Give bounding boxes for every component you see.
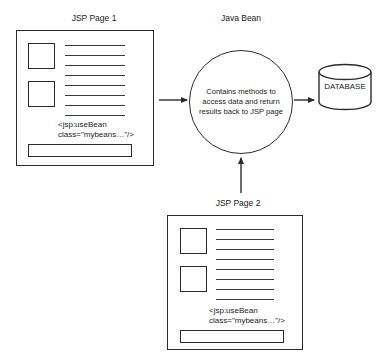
jsp-page-2-content-rule bbox=[216, 279, 274, 280]
java-bean-circle: Contains methods to access data and retu… bbox=[189, 50, 293, 154]
jsp-page-2-title: JSP Page 2 bbox=[194, 198, 282, 208]
jsp-page-1-title: JSP Page 1 bbox=[54, 13, 134, 23]
jsp-page-1-content-rule bbox=[65, 115, 125, 116]
jsp-page-2-content-rule bbox=[216, 289, 274, 290]
java-bean-description: Contains methods to access data and retu… bbox=[194, 87, 288, 117]
jsp-page-2-footer-bar bbox=[180, 330, 284, 343]
jsp-page-1-code-line-2: class="mybeans…"/> bbox=[58, 130, 134, 141]
jsp-page-1-content-rule bbox=[65, 55, 125, 56]
diagram-canvas: JSP Page 1 <jsp:useBean class="mybeans…"… bbox=[0, 0, 392, 364]
jsp-page-1-thumbnail-1 bbox=[28, 43, 55, 69]
jsp-page-1-content-rule bbox=[65, 95, 125, 96]
java-bean-title: Java Bean bbox=[200, 13, 282, 23]
jsp-page-1-thumbnail-2 bbox=[28, 81, 55, 107]
jsp-page-1-content-rule bbox=[65, 105, 125, 106]
jsp-page-2-content-rule bbox=[216, 299, 274, 300]
jsp-page-2-content-rule bbox=[216, 239, 274, 240]
jsp-page-2-code-line-2: class="mybeans…"/> bbox=[209, 316, 285, 327]
database-label: DATABASE bbox=[317, 82, 373, 91]
jsp-page-2-thumbnail-1 bbox=[180, 228, 207, 254]
database-cylinder: DATABASE bbox=[317, 63, 373, 111]
jsp-page-2-content-rule bbox=[216, 229, 274, 230]
jsp-page-1-content-rule bbox=[65, 85, 125, 86]
jsp-page-1-content-rule bbox=[65, 65, 125, 66]
jsp-page-2-thumbnail-2 bbox=[180, 266, 207, 292]
jsp-page-1-footer-bar bbox=[28, 144, 132, 157]
jsp-page-2-box: <jsp:useBean class="mybeans…"/> bbox=[167, 215, 303, 350]
jsp-page-2-content-rule bbox=[216, 249, 274, 250]
jsp-page-1-content-rule bbox=[65, 45, 125, 46]
jsp-page-1-code-line-1: <jsp:useBean bbox=[58, 120, 107, 131]
jsp-page-1-box: <jsp:useBean class="mybeans…"/> bbox=[16, 30, 154, 166]
jsp-page-2-code-line-1: <jsp:useBean bbox=[209, 306, 258, 317]
jsp-page-2-content-rule bbox=[216, 259, 274, 260]
jsp-page-1-content-rule bbox=[65, 75, 125, 76]
jsp-page-2-content-rule bbox=[216, 269, 274, 270]
